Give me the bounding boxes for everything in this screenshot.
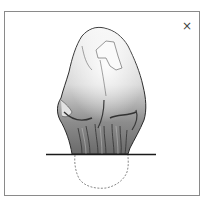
buried-outline xyxy=(75,155,129,188)
close-icon: × xyxy=(182,19,192,33)
close-button[interactable]: × xyxy=(180,19,194,33)
rock-illustration xyxy=(0,0,210,203)
